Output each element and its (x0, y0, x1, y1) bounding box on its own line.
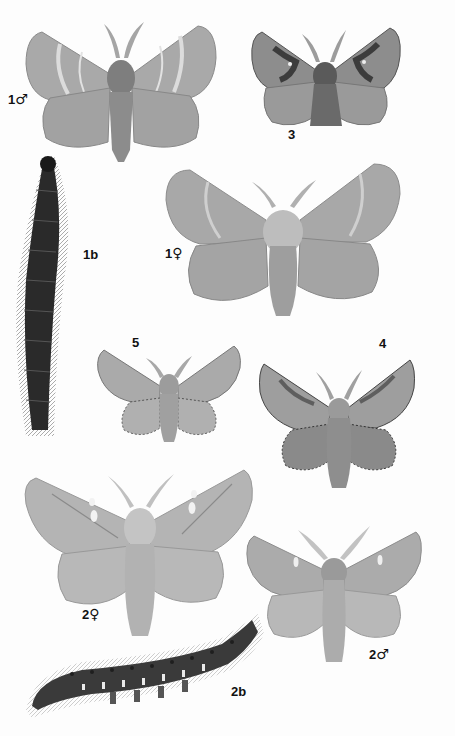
label-2b: 2b (231, 685, 246, 698)
moth-4 (258, 358, 416, 490)
label-2-male: 2♂ (369, 647, 389, 661)
moth-1-male (20, 14, 220, 166)
moth-1-female (160, 160, 406, 320)
moth-5 (96, 346, 242, 446)
moth-2-male (244, 520, 424, 666)
label-4: 4 (379, 337, 386, 350)
moth-3 (250, 22, 402, 132)
label-1-male: 1♂ (8, 92, 28, 106)
label-1b: 1b (83, 248, 98, 261)
label-5: 5 (132, 336, 139, 349)
illustration-plate: 1♂ 3 (0, 0, 455, 736)
label-3: 3 (288, 128, 295, 141)
caterpillar-1b (6, 150, 76, 442)
label-1-female: 1♀ (165, 246, 183, 260)
caterpillar-2b (22, 614, 264, 718)
